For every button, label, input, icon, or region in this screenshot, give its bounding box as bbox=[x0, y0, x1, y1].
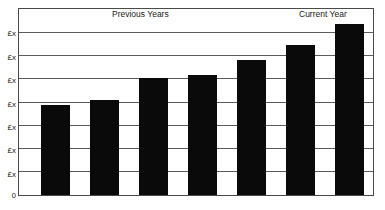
chart-screenshot: £x £x £x £x £x £x £x 0 bbox=[0, 0, 385, 210]
bar-1 bbox=[41, 105, 70, 195]
bar-7 bbox=[335, 24, 364, 195]
bar-6 bbox=[286, 45, 315, 195]
bar-4 bbox=[188, 75, 217, 195]
y-axis-tick-label-4: £x bbox=[0, 101, 16, 109]
previous-years-label: Previous Years bbox=[112, 10, 169, 19]
y-axis-tick-label-zero: 0 bbox=[0, 192, 16, 200]
bars-layer bbox=[19, 9, 373, 195]
bar-3 bbox=[139, 78, 168, 195]
y-axis-tick-label-6: £x bbox=[0, 54, 16, 62]
y-axis-tick-label-2: £x bbox=[0, 147, 16, 155]
bar-2 bbox=[90, 100, 119, 195]
bar-5 bbox=[237, 60, 266, 195]
y-axis-tick-label-7: £x bbox=[0, 30, 16, 38]
y-axis-tick-label-3: £x bbox=[0, 124, 16, 132]
y-axis-tick-label-1: £x bbox=[0, 171, 16, 179]
y-axis-tick-label-5: £x bbox=[0, 77, 16, 85]
chart-plot-frame bbox=[18, 8, 374, 196]
current-year-label: Current Year bbox=[299, 10, 347, 19]
